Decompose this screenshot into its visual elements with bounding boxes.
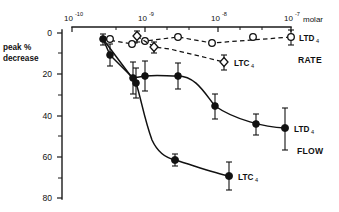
x-tick-label-2-exp: -8 (222, 11, 227, 17)
series-label-ltd4-rate: LTD 4 (299, 34, 319, 44)
x-tick-label-0-exp: -10 (75, 11, 83, 17)
y-tick-label-40: 40 (42, 111, 52, 121)
x-tick-label-0-base: 10 (64, 14, 73, 23)
x-tick-labels: 10 -10 10 -9 10 -8 10 -7 molar (64, 11, 323, 24)
y-axis-title-line2: decrease (3, 54, 39, 63)
y-axis (57, 30, 62, 199)
group-label-flow: FLOW (297, 146, 324, 156)
series-ltc4-flow (103, 39, 233, 190)
group-label-rate: RATE (298, 55, 322, 65)
data-point-filled-circle (212, 103, 219, 110)
series-label-ltd4-flow-sub: 4 (311, 129, 314, 135)
x-axis-unit-label: molar (303, 15, 323, 24)
series-ltd4-rate (100, 30, 294, 47)
data-point-open-circle (175, 34, 182, 41)
chart-figure: 10 -10 10 -9 10 -8 10 -7 molar 0 20 (0, 0, 339, 212)
x-axis (72, 27, 291, 32)
y-axis-title: peak % decrease (3, 43, 39, 63)
series-label-ltc4-flow: LTC 4 (238, 173, 258, 183)
series-label-ltc4-rate: LTC 4 (234, 59, 254, 69)
group-label-rate-text: RATE (298, 55, 322, 65)
x-tick-label-3-base: 10 (284, 14, 293, 23)
series-label-ltd4-flow: LTD 4 (294, 125, 314, 135)
x-tick-label-1-exp: -9 (149, 11, 154, 17)
data-point-filled-circle (253, 121, 260, 128)
series-label-ltd4-flow-text: LTD (294, 125, 309, 134)
x-tick-label-2-base: 10 (211, 14, 220, 23)
series-label-ltc4-flow-sub: 4 (255, 177, 258, 183)
series-label-ltd4-rate-sub: 4 (316, 38, 319, 44)
data-point-open-circle (107, 36, 114, 43)
chart-canvas: 10 -10 10 -9 10 -8 10 -7 molar 0 20 (0, 0, 339, 212)
series-label-ltc4-rate-text: LTC (234, 59, 249, 68)
data-point-filled-circle (281, 124, 288, 131)
y-axis-title-line1: peak % (3, 43, 32, 52)
y-tick-label-60: 60 (42, 152, 52, 162)
series-label-ltd4-rate-text: LTD (299, 34, 314, 43)
series-ltd4-flow (100, 36, 289, 150)
y-tick-labels: 0 20 40 60 80 (42, 28, 52, 203)
data-point-filled-circle (142, 73, 149, 80)
data-point-filled-circle (175, 73, 182, 80)
data-point-filled-circle (171, 156, 178, 163)
y-tick-label-80: 80 (42, 193, 52, 203)
series-label-ltc4-rate-sub: 4 (251, 63, 254, 69)
data-point-filled-circle (133, 80, 140, 87)
data-point-open-diamond (133, 32, 141, 41)
group-label-flow-text: FLOW (297, 146, 324, 156)
x-tick-label-1-base: 10 (138, 14, 147, 23)
data-point-open-diamond (150, 43, 158, 52)
data-point-open-circle (288, 34, 295, 41)
data-point-open-diamond (220, 58, 228, 67)
x-tick-label-3-exp: -7 (295, 11, 300, 17)
data-point-filled-circle (225, 172, 232, 179)
y-tick-label-0: 0 (47, 28, 52, 38)
data-point-open-circle (209, 40, 216, 47)
data-point-open-circle (250, 34, 257, 41)
y-tick-label-20: 20 (42, 69, 52, 79)
series-label-ltc4-flow-text: LTC (238, 173, 253, 182)
